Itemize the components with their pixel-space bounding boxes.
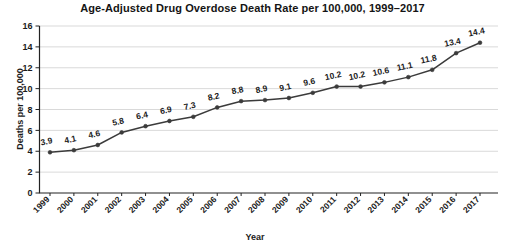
data-point-label: 9.1 xyxy=(278,81,292,93)
x-tick-label: 2013 xyxy=(365,194,386,215)
data-point-marker xyxy=(430,68,434,72)
data-point-label: 8.8 xyxy=(231,84,245,96)
x-tick-label: 2006 xyxy=(198,194,219,215)
data-point-label: 4.1 xyxy=(63,133,77,145)
y-tick-label: 0 xyxy=(27,188,32,198)
x-tick-label: 2007 xyxy=(222,194,243,215)
x-tick-label: 2000 xyxy=(55,194,76,215)
data-point-marker xyxy=(239,99,243,103)
data-point-label: 8.9 xyxy=(255,83,269,95)
data-point-marker xyxy=(478,41,482,45)
x-axis-ticks: 1999200020012002200320042005200620072008… xyxy=(31,193,482,215)
data-point-labels: 3.94.14.65.86.46.97.38.28.88.99.19.610.2… xyxy=(40,25,486,147)
x-tick-label: 2015 xyxy=(413,194,434,215)
data-point-label: 10.2 xyxy=(348,69,367,82)
y-tick-label: 14 xyxy=(22,42,32,52)
data-point-label: 10.2 xyxy=(324,69,343,82)
data-point-label: 7.3 xyxy=(183,100,197,112)
y-axis-ticks: 0246810121416 xyxy=(22,21,39,198)
x-tick-label: 1999 xyxy=(31,194,52,215)
data-point-label: 10.6 xyxy=(372,65,391,78)
y-tick-label: 4 xyxy=(27,146,32,156)
data-point-marker xyxy=(144,124,148,128)
data-point-marker xyxy=(168,119,172,123)
data-point-marker xyxy=(287,96,291,100)
x-tick-label: 2004 xyxy=(150,194,171,215)
data-point-marker xyxy=(191,115,195,119)
x-tick-label: 2001 xyxy=(79,194,100,215)
data-point-marker xyxy=(311,91,315,95)
data-point-label: 3.9 xyxy=(40,135,54,147)
data-point-label: 6.9 xyxy=(159,104,173,116)
x-tick-label: 2010 xyxy=(294,194,315,215)
y-tick-label: 8 xyxy=(27,105,32,115)
y-tick-label: 2 xyxy=(27,167,32,177)
data-point-marker xyxy=(48,150,52,154)
x-tick-label: 2014 xyxy=(389,194,410,215)
x-tick-label: 2017 xyxy=(461,194,482,215)
y-tick-label: 16 xyxy=(22,21,32,31)
data-point-label: 9.6 xyxy=(302,76,316,88)
data-point-label: 5.8 xyxy=(111,115,125,127)
data-point-marker xyxy=(406,75,410,79)
x-tick-label: 2009 xyxy=(270,194,291,215)
data-point-marker xyxy=(120,131,124,135)
data-point-marker xyxy=(359,85,363,89)
x-tick-label: 2012 xyxy=(342,194,363,215)
data-point-marker xyxy=(335,85,339,89)
data-point-marker xyxy=(383,80,387,84)
data-point-marker xyxy=(215,106,219,110)
x-tick-label: 2003 xyxy=(127,194,148,215)
x-tick-label: 2002 xyxy=(103,194,124,215)
x-tick-label: 2008 xyxy=(246,194,267,215)
data-point-marker xyxy=(454,51,458,55)
data-point-marker xyxy=(72,148,76,152)
plot-area: 0246810121416 19992000200120022003200420… xyxy=(0,0,505,252)
x-tick-label: 2016 xyxy=(437,194,458,215)
data-line xyxy=(50,43,480,153)
chart-container: Age-Adjusted Drug Overdose Death Rate pe… xyxy=(0,0,505,252)
data-point-marker xyxy=(96,143,100,147)
y-tick-label: 6 xyxy=(27,126,32,136)
y-tick-label: 12 xyxy=(22,63,32,73)
x-tick-label: 2011 xyxy=(318,194,338,214)
data-point-marker xyxy=(263,98,267,102)
y-tick-label: 10 xyxy=(22,84,32,94)
data-point-label: 11.1 xyxy=(396,60,414,73)
data-point-label: 11.8 xyxy=(420,52,438,65)
data-point-label: 4.6 xyxy=(87,128,101,140)
data-point-label: 6.4 xyxy=(135,109,149,121)
data-point-label: 8.2 xyxy=(207,90,221,102)
data-point-label: 14.4 xyxy=(467,25,486,38)
x-tick-label: 2005 xyxy=(174,194,195,215)
